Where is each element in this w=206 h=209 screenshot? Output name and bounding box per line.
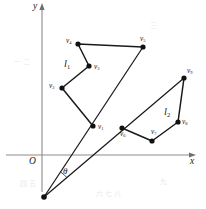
origin-label: O [29, 157, 36, 167]
polyline-l1 [62, 44, 143, 126]
vertex-label-v6: v6 [120, 131, 125, 139]
vertex-label-v2: v2 [49, 83, 54, 91]
bleed-mark: 六 七 八 [96, 188, 121, 198]
vertex-label-v4: v4 [66, 38, 71, 46]
vertex-label-v9: v9 [187, 68, 192, 76]
y-axis-arrowhead [39, 3, 44, 10]
vertex-label-v1: v1 [98, 124, 103, 132]
vertex-dot-v9 [181, 75, 186, 80]
vertex-dot-v8 [175, 119, 180, 124]
chain-label-l1: l1 [64, 59, 70, 70]
vertex-dot-v2 [59, 85, 64, 90]
bleed-mark: 一 二 [14, 56, 30, 66]
bleed-mark: 四 五 [20, 178, 36, 188]
bleed-mark: 三 [150, 20, 157, 30]
chain-label-l2: l2 [164, 107, 170, 118]
vertex-label-v5: v5 [140, 36, 145, 44]
y-axis-label: y [33, 2, 37, 12]
apex-vertex-dot [41, 194, 47, 200]
bleed-mark: 九 [160, 176, 167, 186]
vertex-dot-v7 [149, 138, 154, 143]
vertex-dot-v1 [90, 123, 95, 128]
x-axis-label: x [190, 157, 194, 167]
vertex-dot-v5 [140, 44, 145, 49]
theta-label: θ [63, 167, 67, 176]
vertex-label-v7: v7 [151, 129, 156, 137]
vertex-label-v3: v3 [94, 64, 99, 72]
vertex-dot-v3 [86, 63, 91, 68]
vertex-dot-v4 [75, 41, 80, 46]
vertex-label-v8: v8 [182, 119, 187, 127]
